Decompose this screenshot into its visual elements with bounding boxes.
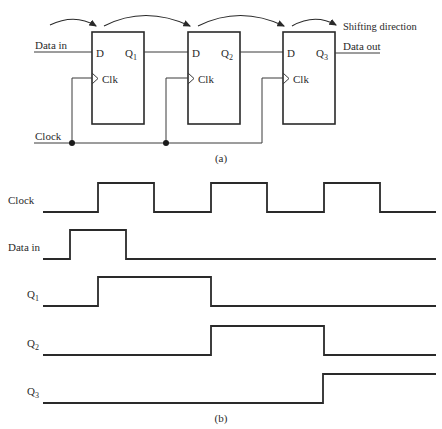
shift-arrow-2 (104, 16, 190, 27)
junction-dot-2 (163, 140, 169, 146)
circuit-schematic: Shifting direction Data in D Q1 Clk D Q2… (34, 16, 418, 166)
clock-label: Clock (35, 130, 62, 142)
signal-data-in: Data in (8, 230, 436, 259)
waveform-clock (43, 183, 436, 212)
clock-to-ff2-wire (166, 78, 188, 143)
junction-dot-1 (69, 140, 75, 146)
signal-label-q3: Q3 (27, 385, 39, 400)
ff2-d-label: D (192, 47, 200, 59)
ff1-clk-label: Clk (102, 73, 118, 85)
data-out-label: Data out (343, 40, 381, 52)
signal-label-data-in: Data in (8, 241, 41, 253)
flip-flop-2: D Q2 Clk (188, 32, 240, 124)
shift-arrow-4 (292, 19, 336, 26)
clock-to-ff1-wire (72, 78, 92, 143)
caption-b: (b) (215, 412, 228, 425)
flip-flop-1: D Q1 Clk (92, 32, 144, 124)
waveform-data-in (43, 230, 436, 259)
signal-q3: Q3 (27, 374, 436, 403)
caption-a: (a) (215, 152, 228, 165)
ff3-clk-label: Clk (293, 73, 309, 85)
shift-register-diagram: Shifting direction Data in D Q1 Clk D Q2… (0, 0, 442, 429)
ff3-d-label: D (287, 47, 295, 59)
signal-q2: Q2 (27, 326, 436, 355)
timing-diagram: ClockData inQ1Q2Q3 (8, 183, 436, 403)
signal-clock: Clock (8, 183, 436, 212)
signal-label-q2: Q2 (27, 337, 39, 352)
shift-direction-label: Shifting direction (343, 21, 418, 32)
waveform-q2 (43, 326, 436, 355)
ff1-d-label: D (96, 47, 104, 59)
signal-label-clock: Clock (8, 194, 35, 206)
waveform-q1 (43, 277, 436, 306)
flip-flop-3: D Q3 Clk (283, 32, 335, 124)
signal-q1: Q1 (27, 277, 436, 306)
shift-arrow-1 (50, 19, 96, 26)
clock-to-ff3-wire (262, 78, 283, 143)
waveform-q3 (43, 374, 436, 403)
data-in-label: Data in (35, 39, 68, 51)
ff2-clk-label: Clk (198, 73, 214, 85)
signal-label-q1: Q1 (27, 288, 39, 303)
shift-arrow-3 (198, 16, 284, 27)
